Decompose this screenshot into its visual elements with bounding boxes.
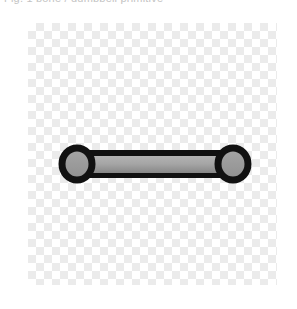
shape-layer <box>0 0 297 309</box>
dumbbell-left-node[interactable] <box>62 148 92 180</box>
dumbbell-shape[interactable] <box>62 148 248 180</box>
dumbbell-right-node[interactable] <box>218 148 248 180</box>
image-viewer: Fig. 1 bone / dumbbell primitive <box>0 0 297 309</box>
dumbbell-bar-fill <box>77 156 233 173</box>
